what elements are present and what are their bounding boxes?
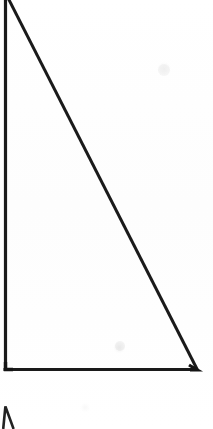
scan-smudge-icon [115,341,125,351]
bottom-left-corner-icon [6,362,14,370]
triangle-hypotenuse-icon [5,0,198,370]
scan-smudge-icon [158,64,170,76]
scan-page [0,0,213,429]
cropped-caret-mark-icon [3,407,13,429]
right-triangle-figure [0,0,213,429]
